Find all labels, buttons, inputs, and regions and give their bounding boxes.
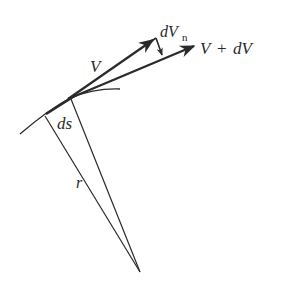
vector-v-tail-extension: [150, 38, 156, 42]
label-r: r: [76, 174, 83, 191]
label-ds: ds: [57, 114, 73, 133]
svg-text:dV: dV: [160, 23, 180, 40]
svg-text:n: n: [182, 31, 188, 43]
svg-text:dV: dV: [233, 39, 255, 58]
vector-dvn: [156, 38, 162, 55]
label-v: V: [90, 57, 103, 76]
diagram-canvas: V dV n V + dV ds r: [0, 0, 281, 283]
svg-text:V: V: [200, 39, 213, 58]
radius-line-1: [45, 116, 140, 272]
label-v-plus-dv: V + dV: [200, 39, 255, 58]
label-dvn: dV n: [160, 23, 188, 43]
svg-text:+: +: [217, 39, 227, 58]
